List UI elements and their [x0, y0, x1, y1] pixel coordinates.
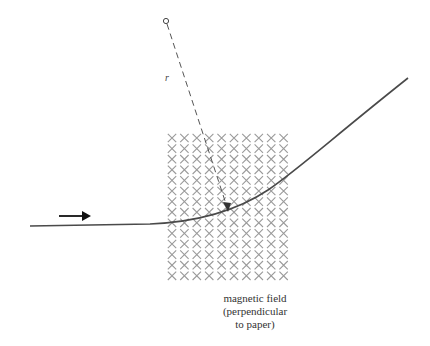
field-x-icon — [242, 250, 250, 258]
field-x-icon — [180, 240, 188, 248]
field-x-icon — [205, 197, 213, 205]
field-x-icon — [217, 250, 225, 258]
field-x-icon — [267, 250, 275, 258]
field-x-icon — [168, 272, 176, 280]
field-x-icon — [217, 134, 225, 142]
field-x-icon — [267, 272, 275, 280]
field-x-icon — [168, 155, 176, 163]
field-x-icon — [279, 155, 287, 163]
field-x-icon — [230, 250, 238, 258]
field-x-icon — [193, 219, 201, 227]
field-x-icon — [168, 176, 176, 184]
field-x-icon — [205, 240, 213, 248]
field-x-icon — [255, 272, 263, 280]
field-x-icon — [267, 155, 275, 163]
field-x-icon — [168, 208, 176, 216]
field-x-icon — [267, 176, 275, 184]
field-x-icon — [217, 229, 225, 237]
field-x-icon — [255, 261, 263, 269]
field-x-icon — [242, 240, 250, 248]
field-x-icon — [279, 272, 287, 280]
field-x-icon — [180, 187, 188, 195]
field-x-icon — [279, 240, 287, 248]
radius-label: r — [165, 72, 169, 83]
field-x-icon — [168, 229, 176, 237]
field-x-icon — [205, 134, 213, 142]
field-x-icon — [230, 197, 238, 205]
field-x-icon — [205, 261, 213, 269]
field-x-icon — [168, 134, 176, 142]
field-x-icon — [255, 134, 263, 142]
field-x-icon — [168, 197, 176, 205]
field-x-icon — [180, 229, 188, 237]
field-x-icon — [230, 187, 238, 195]
field-x-icon — [255, 219, 263, 227]
field-x-icon — [205, 187, 213, 195]
field-x-icon — [230, 155, 238, 163]
field-x-icon — [168, 187, 176, 195]
field-x-icon — [230, 219, 238, 227]
field-x-icon — [230, 240, 238, 248]
field-x-icon — [242, 176, 250, 184]
field-x-icon — [267, 208, 275, 216]
field-x-icon — [267, 134, 275, 142]
field-x-icon — [279, 229, 287, 237]
field-x-icon — [230, 261, 238, 269]
field-x-icon — [242, 155, 250, 163]
field-x-icon — [242, 261, 250, 269]
field-x-icon — [193, 134, 201, 142]
field-x-icon — [279, 219, 287, 227]
field-x-icon — [193, 261, 201, 269]
field-x-icon — [267, 197, 275, 205]
field-x-icon — [267, 240, 275, 248]
field-x-icon — [193, 250, 201, 258]
field-x-icon — [205, 219, 213, 227]
field-x-icon — [267, 166, 275, 174]
field-x-icon — [255, 144, 263, 152]
field-x-icon — [180, 261, 188, 269]
field-x-icon — [242, 166, 250, 174]
field-x-icon — [255, 176, 263, 184]
field-x-icon — [205, 250, 213, 258]
field-x-icon — [193, 229, 201, 237]
field-x-icon — [230, 144, 238, 152]
field-x-icon — [217, 144, 225, 152]
direction-arrow-icon — [82, 211, 91, 221]
field-x-icon — [242, 187, 250, 195]
field-x-icon — [193, 208, 201, 216]
field-x-icon — [180, 176, 188, 184]
field-x-icon — [205, 272, 213, 280]
field-x-icon — [168, 261, 176, 269]
field-x-icon — [205, 166, 213, 174]
field-x-icon — [279, 166, 287, 174]
field-x-icon — [180, 208, 188, 216]
field-x-icon — [242, 229, 250, 237]
field-x-icon — [255, 166, 263, 174]
field-x-icon — [279, 197, 287, 205]
field-x-icon — [255, 250, 263, 258]
caption-line-2: (perpendicular — [200, 305, 310, 318]
caption-line-1: magnetic field — [200, 292, 310, 305]
field-x-icon — [255, 155, 263, 163]
field-x-icon — [230, 134, 238, 142]
field-x-icon — [230, 166, 238, 174]
field-x-icon — [279, 261, 287, 269]
field-x-icon — [193, 272, 201, 280]
field-x-icon — [180, 166, 188, 174]
field-x-icon — [255, 197, 263, 205]
caption-line-3: to paper) — [200, 318, 310, 331]
field-x-icon — [193, 155, 201, 163]
field-x-icon — [242, 208, 250, 216]
field-x-icon — [242, 272, 250, 280]
field-x-icon — [180, 134, 188, 142]
center-of-curvature-icon — [163, 18, 168, 23]
field-x-icon — [217, 272, 225, 280]
field-x-icon — [267, 144, 275, 152]
field-x-icon — [193, 187, 201, 195]
field-x-icon — [242, 219, 250, 227]
field-x-icon — [180, 144, 188, 152]
field-x-icon — [242, 144, 250, 152]
field-x-icon — [193, 176, 201, 184]
field-x-icon — [242, 134, 250, 142]
field-x-icon — [180, 272, 188, 280]
